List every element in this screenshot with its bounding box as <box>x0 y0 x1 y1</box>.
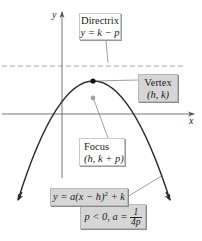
vertex-leader-line <box>94 80 138 81</box>
fraction-denominator: 4p <box>130 218 142 227</box>
focus-title: Focus <box>84 141 124 153</box>
vertex-title: Vertex <box>139 77 177 89</box>
directrix-leader-line <box>106 40 108 63</box>
directrix-label-box: Directrix y = k − p <box>79 13 121 40</box>
focus-coords: (h, k + p) <box>84 153 124 165</box>
focus-label-box: Focus (h, k + p) <box>79 138 125 166</box>
equation-box: y = a(x − h)2 + k <box>50 188 128 206</box>
focus-point <box>91 96 96 101</box>
focus-leader-line <box>94 100 108 138</box>
condition-text: p < 0, a = <box>84 211 130 222</box>
y-axis-label: y <box>52 9 56 21</box>
vertex-coords: (h, k) <box>139 89 177 101</box>
directrix-equation: y = k − p <box>80 27 120 39</box>
directrix-title: Directrix <box>80 15 120 27</box>
condition-fraction: 14p <box>130 208 142 227</box>
x-axis-label: x <box>189 115 193 127</box>
vertex-point <box>90 78 95 83</box>
equation-leader-line <box>127 175 163 197</box>
vertex-label-box: Vertex (h, k) <box>138 74 178 102</box>
equation-lhs: y = a(x − h) <box>53 191 105 202</box>
condition-box: p < 0, a = 14p <box>80 204 146 229</box>
equation-rhs: + k <box>108 191 125 202</box>
